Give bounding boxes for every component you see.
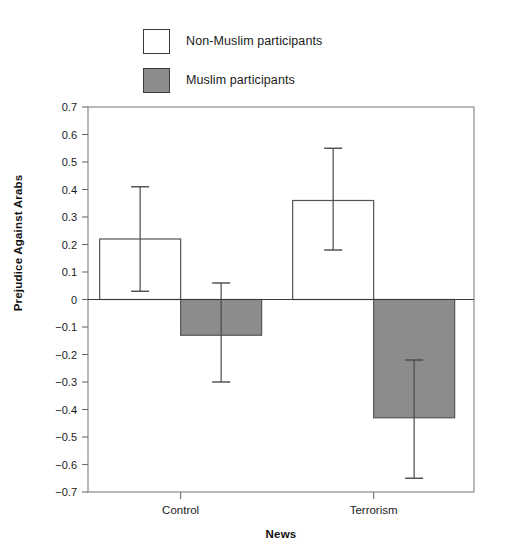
x-axis: ControlTerrorism [162,492,398,516]
x-tick-label: Control [162,504,199,516]
y-tick-label: 0.1 [62,266,77,278]
y-tick-label: 0.2 [62,239,77,251]
y-tick-label: −0.2 [55,349,77,361]
y-tick-label: 0.7 [62,101,77,113]
y-tick-label: 0.6 [62,129,77,141]
bars [100,148,455,478]
y-tick-label: −0.7 [55,486,77,498]
y-tick-label: 0 [71,294,77,306]
y-tick-label: −0.3 [55,376,77,388]
y-tick-label: −0.6 [55,459,77,471]
y-axis: 0.70.60.50.40.30.20.10−0.1−0.2−0.3−0.4−0… [55,101,88,498]
y-tick-label: −0.1 [55,321,77,333]
y-tick-label: 0.4 [62,184,77,196]
x-tick-label: Terrorism [350,504,398,516]
y-tick-label: 0.3 [62,211,77,223]
plot-area: 0.70.60.50.40.30.20.10−0.1−0.2−0.3−0.4−0… [0,0,507,552]
y-tick-label: −0.5 [55,431,77,443]
bar-chart: Non-Muslim participants Muslim participa… [0,0,507,552]
y-tick-label: −0.4 [55,404,77,416]
y-tick-label: 0.5 [62,156,77,168]
